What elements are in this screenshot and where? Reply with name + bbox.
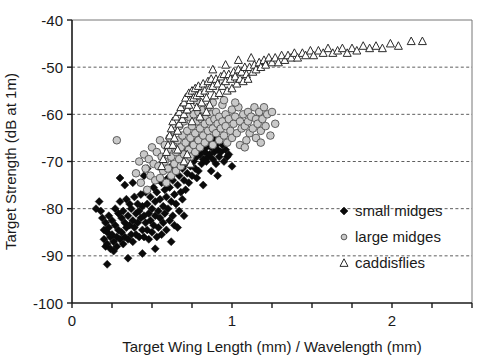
data-point (418, 37, 426, 45)
data-point (271, 120, 279, 128)
y-axis-title: Target Strength (dB at 1m) (2, 73, 19, 250)
data-point (163, 179, 171, 187)
data-point (199, 181, 207, 189)
data-point (372, 42, 380, 50)
data-point (142, 165, 150, 173)
data-point (143, 186, 151, 194)
x-tick-label: 2 (388, 312, 396, 329)
data-point (135, 158, 143, 166)
data-point (257, 139, 265, 147)
data-point (228, 162, 236, 170)
data-point (267, 132, 275, 140)
data-point (167, 238, 175, 246)
data-point (178, 195, 186, 203)
data-point (207, 167, 215, 175)
data-point (222, 61, 230, 69)
y-tick-label: -70 (41, 153, 63, 170)
data-point (116, 174, 124, 182)
legend-label: caddisflies (355, 254, 425, 271)
data-point (103, 260, 111, 268)
data-point (234, 56, 242, 64)
data-point (386, 39, 394, 47)
data-point (231, 99, 239, 107)
data-point (394, 42, 402, 50)
data-point (262, 122, 270, 130)
data-point (132, 169, 140, 177)
y-tick-label: -50 (41, 59, 63, 76)
legend-label: large midges (355, 228, 441, 245)
legend-marker-open-triangle (340, 259, 348, 267)
data-point (243, 136, 251, 144)
legend-label: small midges (355, 202, 443, 219)
data-point (215, 89, 223, 97)
y-tick-label: -80 (41, 200, 63, 217)
chart-figure: -100-90-80-70-60-50-40012 Target Wing Le… (0, 0, 482, 359)
data-point (268, 108, 276, 116)
data-point (95, 198, 103, 206)
x-tick-label: 1 (228, 312, 236, 329)
y-tick-label: -100 (33, 295, 63, 312)
legend: small midgeslarge midgescaddisflies (340, 202, 443, 271)
data-point (247, 54, 255, 62)
data-point (338, 44, 346, 52)
data-point (121, 181, 129, 189)
data-point (214, 172, 222, 180)
data-point (124, 254, 132, 262)
data-point (220, 96, 228, 104)
data-point (137, 179, 145, 187)
legend-marker-filled-diamond (340, 207, 348, 215)
scatter-plot: -100-90-80-70-60-50-40012 Target Wing Le… (0, 0, 482, 359)
data-point (324, 44, 332, 52)
data-point (151, 245, 159, 253)
y-tick-label: -40 (41, 12, 63, 29)
data-point (260, 103, 268, 111)
data-point (209, 65, 217, 73)
legend-marker-open-gray-circle (341, 234, 347, 240)
data-point (359, 42, 367, 50)
data-point (113, 136, 121, 144)
y-tick-label: -90 (41, 247, 63, 264)
x-tick-label: 0 (68, 312, 76, 329)
x-axis-title: Target Wing Length (mm) / Wavelength (mm… (122, 338, 422, 355)
data-point (241, 144, 249, 152)
data-point (129, 179, 137, 187)
data-point (407, 37, 415, 45)
y-tick-label: -60 (41, 106, 63, 123)
